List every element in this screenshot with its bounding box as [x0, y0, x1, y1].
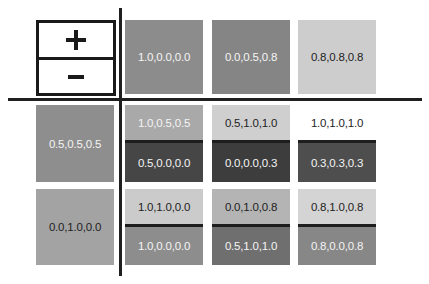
- sum-half: 1.0,0.5,0.5: [125, 105, 203, 140]
- header-color-3: 0.8,0.8,0.8: [298, 20, 376, 94]
- header-color-1-label: 1.0,0.0,0.0: [138, 51, 190, 63]
- sum-half: 1.0,1.0,1.0: [298, 105, 376, 140]
- row-1-color-label: 0.5,0.5,0.5: [49, 138, 101, 150]
- result-cell-r2-c1: 1.0,1.0,0.0 1.0,0.0,0.0: [125, 189, 203, 265]
- difference-half: 0.3,0.3,0.3: [298, 143, 376, 182]
- minus-cell: [39, 60, 113, 94]
- result-cell-r1-c1: 1.0,0.5,0.5 0.5,0.0,0.0: [125, 105, 203, 182]
- sum-half: 1.0,1.0,0.0: [125, 189, 203, 224]
- vertical-axis-line: [119, 8, 122, 276]
- row-2-color: 0.0,1.0,0.0: [36, 189, 114, 265]
- sum-half: 0.0,1.0,0.8: [212, 189, 290, 224]
- plus-cell: [39, 23, 113, 57]
- result-cell-r2-c2: 0.0,1.0,0.8 0.5,1.0,1.0: [212, 189, 290, 265]
- result-cell-r1-c2: 0.5,1.0,1.0 0.0,0.0,0.3: [212, 105, 290, 182]
- plus-icon: [66, 30, 86, 50]
- sum-half: 0.5,1.0,1.0: [212, 105, 290, 140]
- header-color-2-label: 0.0,0.5,0.8: [225, 51, 277, 63]
- horizontal-axis-line: [8, 98, 422, 101]
- difference-half: 0.5,1.0,1.0: [212, 227, 290, 265]
- header-color-2: 0.0,0.5,0.8: [212, 20, 290, 94]
- header-color-3-label: 0.8,0.8,0.8: [311, 51, 363, 63]
- difference-half: 0.8,0.0,0.8: [298, 227, 376, 265]
- result-cell-r1-c3: 1.0,1.0,1.0 0.3,0.3,0.3: [298, 105, 376, 182]
- plus-minus-legend: [36, 20, 116, 96]
- difference-half: 1.0,0.0,0.0: [125, 227, 203, 265]
- header-color-1: 1.0,0.0,0.0: [125, 20, 203, 94]
- row-2-color-label: 0.0,1.0,0.0: [49, 221, 101, 233]
- difference-half: 0.5,0.0,0.0: [125, 143, 203, 182]
- result-cell-r2-c3: 0.8,1.0,0.8 0.8,0.0,0.8: [298, 189, 376, 265]
- minus-icon: [68, 75, 84, 79]
- difference-half: 0.0,0.0,0.3: [212, 143, 290, 182]
- row-1-color: 0.5,0.5,0.5: [36, 105, 114, 182]
- sum-half: 0.8,1.0,0.8: [298, 189, 376, 224]
